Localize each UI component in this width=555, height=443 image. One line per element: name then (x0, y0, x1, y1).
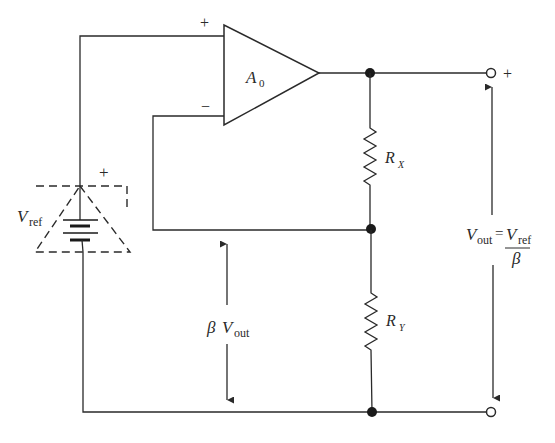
feedback-beta-symbol: β (206, 318, 216, 337)
wire-ground (83, 252, 487, 412)
equation-equals: = (495, 225, 503, 241)
opamp-gain-label: A (245, 68, 257, 87)
ground-node-dot (367, 407, 377, 417)
equation-vref-subscript: ref (518, 233, 531, 247)
wire-inverting-input (153, 116, 371, 230)
resistor-ry-label: R (385, 312, 396, 329)
equation-beta: β (511, 249, 521, 268)
circuit-diagram: + − A 0 + R X R Y + V ref β V out V (0, 0, 555, 443)
voltage-reference-source (35, 186, 130, 252)
resistor-ry-subscript: Y (399, 322, 406, 333)
opamp-gain-subscript: 0 (259, 77, 265, 89)
output-terminal-positive (487, 69, 496, 78)
opamp-minus-sign: − (201, 98, 210, 115)
reference-plus-sign: + (99, 163, 109, 182)
reference-subscript: ref (29, 215, 42, 229)
output-plus-sign: + (503, 65, 512, 82)
feedback-vout-subscript: out (234, 326, 250, 340)
equation-vout-subscript: out (477, 233, 493, 247)
opamp-triangle (224, 25, 319, 125)
opamp-plus-sign: + (200, 14, 209, 31)
output-equation: V out = V ref β (466, 225, 531, 268)
resistor-rx-subscript: X (397, 159, 405, 170)
resistor-rx-label: R (384, 149, 395, 166)
reference-dashed-box (36, 186, 127, 207)
resistor-rx (364, 73, 376, 230)
output-terminal-negative (487, 408, 496, 417)
resistor-ry (365, 230, 377, 412)
